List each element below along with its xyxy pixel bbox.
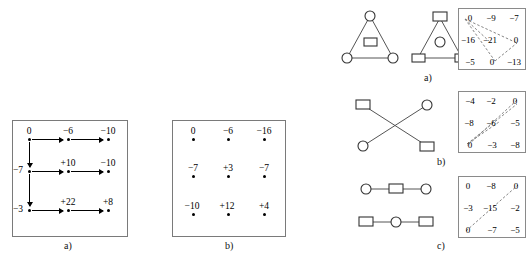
panel-b-label-r2c1: +12	[215, 201, 239, 211]
row-a-cell-r0c0: 0	[459, 13, 481, 23]
row-c-cell-r1c2: −2	[504, 203, 526, 213]
row-b-cell-r2c0: 0	[459, 140, 481, 150]
node-circle	[421, 184, 431, 194]
row-c-cell-r2c0: 0	[457, 225, 479, 235]
node-circle	[361, 184, 371, 194]
panel-b-label-r0c2: −16	[252, 126, 276, 136]
row-c-matrix: 0 −8 0 −3 −15 −2 0 −7 −5	[458, 176, 526, 238]
panel-a-label-r0c1: −6	[57, 126, 79, 136]
row-c-cell-r1c1: −15	[479, 203, 501, 213]
left-panel-b-caption: b)	[225, 240, 233, 251]
row-b-graphs	[330, 88, 460, 158]
panel-b-node	[227, 175, 230, 178]
panel-a-node	[67, 170, 70, 173]
node-square	[364, 38, 377, 46]
row-b-cell-r0c0: −4	[459, 96, 481, 106]
node-circle	[435, 37, 445, 47]
left-panel-a: 0 −6 −10 −7 +10 −10 −3 +22 +8	[12, 120, 128, 237]
node-circle	[388, 53, 398, 63]
panel-b-node	[192, 175, 195, 178]
panel-a-node	[28, 209, 31, 212]
row-a-caption: a)	[424, 72, 432, 83]
panel-a-label-r1c2: −10	[96, 158, 120, 168]
row-c-cell-r0c1: −8	[480, 181, 502, 191]
node-square	[389, 184, 403, 193]
panel-a-node	[28, 138, 31, 141]
left-panel-b: 0 −6 −16 −7 +3 −7 −10 +12 +4	[172, 120, 286, 237]
panel-a-arrow-down	[29, 174, 30, 206]
row-c-cell-r2c1: −7	[481, 225, 503, 235]
row-b-caption: b)	[437, 156, 445, 167]
panel-a-arrow-right	[32, 139, 63, 140]
panel-b-node	[192, 213, 195, 216]
row-c-graphs	[330, 172, 460, 240]
panel-a-arrow-right	[71, 139, 103, 140]
panel-a-label-r0c0: 0	[18, 126, 40, 136]
node-square	[356, 100, 370, 109]
row-b-cell-r1c0: −8	[458, 118, 480, 128]
panel-b-node	[263, 138, 266, 141]
node-square	[433, 12, 447, 21]
panel-a-node	[107, 138, 110, 141]
row-c-cell-r2c2: −5	[504, 225, 526, 235]
node-square	[419, 217, 433, 226]
row-c-caption: c)	[437, 240, 445, 251]
row-a-cell-r2c1: 0	[481, 57, 503, 67]
panel-b-label-r1c0: −7	[182, 163, 204, 173]
panel-b-node	[263, 213, 266, 216]
row-a-cell-r1c1: −21	[479, 35, 501, 45]
panel-a-arrow-right	[32, 210, 63, 211]
panel-b-label-r0c0: 0	[182, 126, 204, 136]
row-a-matrix: 0 −9 −7 −16 −21 0 −5 0 −13	[458, 8, 526, 70]
panel-a-node	[67, 138, 70, 141]
row-c-cell-r0c0: 0	[457, 181, 479, 191]
node-circle	[422, 100, 432, 110]
figure-canvas: 0 −6 −10 −7 +10 −10 −3 +22 +8 a)	[0, 0, 531, 273]
row-a-cell-r1c0: −16	[457, 35, 479, 45]
row-b-cell-r0c1: −2	[480, 96, 502, 106]
row-b-cell-r1c2: −5	[504, 118, 526, 128]
panel-a-arrow-down	[29, 142, 30, 167]
panel-a-arrow-right	[71, 210, 103, 211]
panel-b-node	[227, 213, 230, 216]
panel-b-label-r2c0: −10	[180, 201, 204, 211]
node-circle	[391, 217, 401, 227]
row-b-cell-r0c2: 0	[504, 96, 526, 106]
panel-b-label-r0c1: −6	[217, 126, 239, 136]
node-square	[412, 54, 425, 62]
panel-a-arrow-right	[32, 171, 63, 172]
row-c-cell-r0c2: 0	[505, 181, 527, 191]
node-circle	[342, 53, 352, 63]
node-circle	[365, 11, 375, 21]
panel-a-arrow-right	[71, 171, 103, 172]
row-a-graphs	[330, 5, 460, 71]
node-square	[359, 217, 373, 226]
node-circle	[358, 141, 368, 151]
panel-b-label-r2c2: +4	[252, 201, 276, 211]
panel-a-label-r0c2: −10	[96, 126, 120, 136]
row-a-cell-r1c2: 0	[505, 35, 527, 45]
row-b-cell-r2c1: −3	[481, 140, 503, 150]
row-a-cell-r0c2: −7	[503, 13, 525, 23]
panel-a-label-r1c1: +10	[57, 158, 79, 168]
panel-b-node	[263, 175, 266, 178]
panel-a-label-r2c1: +22	[57, 197, 79, 207]
row-c-cell-r1c0: −3	[457, 203, 479, 213]
row-a-cell-r2c0: −5	[459, 57, 481, 67]
panel-b-node	[192, 138, 195, 141]
left-panel-a-caption: a)	[64, 240, 72, 251]
row-a-cell-r2c2: −13	[503, 57, 525, 67]
panel-b-label-r1c2: −7	[252, 163, 276, 173]
node-square	[420, 142, 434, 151]
row-b-cell-r2c2: −8	[504, 140, 526, 150]
panel-a-label-r2c2: +8	[96, 197, 120, 207]
panel-a-node	[107, 170, 110, 173]
row-b-matrix: −4 −2 0 −8 −6 −5 0 −3 −8	[458, 91, 526, 153]
panel-a-node	[67, 209, 70, 212]
row-a-cell-r0c1: −9	[480, 13, 502, 23]
panel-b-label-r1c1: +3	[217, 163, 239, 173]
panel-a-node	[28, 170, 31, 173]
panel-b-node	[227, 138, 230, 141]
panel-a-node	[107, 209, 110, 212]
row-b-cell-r1c1: −6	[480, 118, 502, 128]
